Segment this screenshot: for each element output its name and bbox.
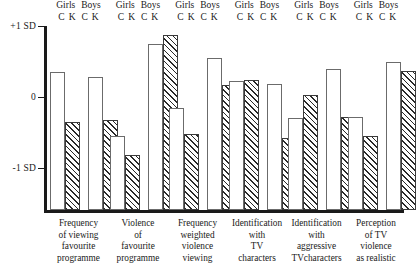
group-header-condition-label: K (151, 12, 158, 22)
bar (244, 80, 259, 210)
group-header-gender-label: Girls (116, 0, 135, 10)
group-header-condition-label: C (141, 12, 147, 22)
group-header: GirlsBoysCKCK (348, 0, 405, 23)
footer-partial-text (0, 258, 408, 265)
group-header-condition-label: C (356, 12, 362, 22)
group-header-conditions: CKCK (169, 12, 226, 24)
group-header-gender-label: Girls (235, 0, 254, 10)
bar-group: GirlsBoysCKCK (348, 26, 405, 210)
bar (348, 117, 363, 210)
category-label-line: violence (339, 241, 414, 253)
group-header-condition-label: K (92, 12, 99, 22)
group-header-gender-label: Girls (294, 0, 313, 10)
bar (386, 62, 401, 211)
group-header-genders: GirlsBoys (110, 0, 167, 12)
group-header-gender-label: Boys (81, 0, 101, 10)
group-header: GirlsBoysCKCK (110, 0, 167, 23)
group-header-condition-label: K (211, 12, 218, 22)
group-header-gender-label: Girls (175, 0, 194, 10)
bar (169, 108, 184, 210)
group-header-condition-label: K (389, 12, 396, 22)
bar (88, 77, 103, 210)
group-header-genders: GirlsBoys (229, 0, 286, 12)
group-header-condition-label: C (379, 12, 385, 22)
bar (148, 44, 163, 210)
group-header-gender-label: Boys (379, 0, 399, 10)
group-header-condition-label: C (237, 12, 243, 22)
group-header-gender-label: Boys (260, 0, 280, 10)
y-axis-tick-label: -1 SD (13, 163, 36, 173)
bar (267, 84, 282, 210)
group-header-condition-label: K (330, 12, 337, 22)
bar (184, 134, 199, 210)
group-header-gender-label: Boys (141, 0, 161, 10)
group-header-conditions: CKCK (288, 12, 345, 24)
bar-group: GirlsBoysCKCK (169, 26, 226, 210)
group-header-condition-label: C (320, 12, 326, 22)
bar (50, 72, 65, 210)
bar-group: GirlsBoysCKCK (288, 26, 345, 210)
group-header: GirlsBoysCKCK (229, 0, 286, 23)
y-axis-tick-label: 0 (31, 92, 36, 102)
bar (401, 71, 416, 210)
group-header-condition-label: C (296, 12, 302, 22)
group-header-condition-label: C (260, 12, 266, 22)
group-header-condition-label: K (188, 12, 195, 22)
group-header-gender-label: Girls (56, 0, 75, 10)
y-axis-tick-mark (38, 97, 44, 98)
bar (363, 136, 378, 210)
group-header-condition-label: C (118, 12, 124, 22)
bar (288, 118, 303, 210)
group-header-condition-label: K (270, 12, 277, 22)
group-header-condition-label: K (366, 12, 373, 22)
bar (229, 81, 244, 210)
y-axis-tick-label: +1 SD (10, 21, 36, 31)
group-header-gender-label: Boys (200, 0, 220, 10)
group-header-condition-label: K (128, 12, 135, 22)
group-header: GirlsBoysCKCK (288, 0, 345, 23)
y-axis-tick-mark (38, 26, 44, 27)
group-header-condition-label: C (201, 12, 207, 22)
group-header-genders: GirlsBoys (169, 0, 226, 12)
group-header: GirlsBoysCKCK (50, 0, 107, 23)
x-axis-line (44, 210, 404, 213)
group-header: GirlsBoysCKCK (169, 0, 226, 23)
group-header-genders: GirlsBoys (288, 0, 345, 12)
group-header-conditions: CKCK (348, 12, 405, 24)
plot-area: GirlsBoysCKCKGirlsBoysCKCKGirlsBoysCKCKG… (47, 26, 404, 210)
bar (65, 122, 80, 210)
group-header-genders: GirlsBoys (50, 0, 107, 12)
category-label-line: of TV (339, 230, 414, 242)
group-header-conditions: CKCK (50, 12, 107, 24)
group-header-gender-label: Boys (319, 0, 339, 10)
group-header-conditions: CKCK (229, 12, 286, 24)
group-header-condition-label: C (82, 12, 88, 22)
bar (125, 155, 140, 210)
bar-group: GirlsBoysCKCK (50, 26, 107, 210)
bar (110, 136, 125, 210)
group-header-condition-label: K (247, 12, 254, 22)
group-header-condition-label: C (177, 12, 183, 22)
bar (303, 95, 318, 210)
group-header-conditions: CKCK (110, 12, 167, 24)
category-label-line: Perception (339, 218, 414, 230)
group-header-genders: GirlsBoys (348, 0, 405, 12)
bar (207, 58, 222, 210)
group-header-condition-label: K (307, 12, 314, 22)
bar (326, 69, 341, 210)
bar-group: GirlsBoysCKCK (110, 26, 167, 210)
y-axis-tick-mark (38, 168, 44, 169)
group-header-condition-label: K (69, 12, 76, 22)
bar-group: GirlsBoysCKCK (229, 26, 286, 210)
group-header-condition-label: C (58, 12, 64, 22)
group-header-gender-label: Girls (354, 0, 373, 10)
